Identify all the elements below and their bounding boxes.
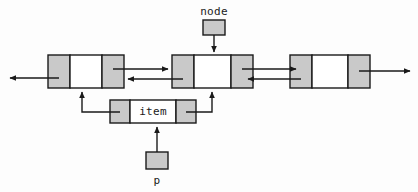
node-item-data-label: item (139, 106, 167, 117)
pointer-box-node (203, 20, 225, 35)
node-left-data-cell (70, 55, 102, 88)
pointer-label-node: node (200, 6, 228, 17)
list-node-right (290, 55, 370, 88)
node-left-next-cell (102, 55, 124, 88)
list-node-left (48, 55, 124, 88)
linked-list-diagram: node item p (0, 0, 418, 192)
node-middle-next-cell (231, 55, 253, 88)
node-middle-prev-cell (172, 55, 194, 88)
pointer-box-p (146, 152, 168, 169)
list-node-middle (172, 55, 253, 88)
pointer-label-p: p (154, 175, 161, 186)
diagram-canvas (0, 0, 418, 192)
node-middle-data-cell (194, 55, 231, 88)
node-right-prev-cell (290, 55, 312, 88)
node-right-data-cell (312, 55, 348, 88)
node-left-prev-cell (48, 55, 70, 88)
